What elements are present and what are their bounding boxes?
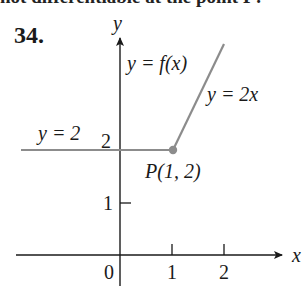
point-p-label: P(1, 2) (144, 160, 201, 183)
point-p (169, 146, 177, 154)
y-equals-2-label: y = 2 (36, 122, 80, 145)
y-equals-2x-label: y = 2x (205, 83, 258, 106)
x-tick-label-1: 1 (167, 261, 177, 283)
x-tick-label-2: 2 (219, 261, 229, 283)
y-tick-label-2: 2 (101, 130, 111, 152)
x-axis-label: x (291, 244, 301, 266)
piecewise-graph: y x y = f(x) y = 2x y = 2 P(1, 2) 2 1 0 … (0, 0, 306, 286)
y-axis-label: y (111, 12, 122, 35)
x-tick-label-0: 0 (104, 261, 114, 283)
y-tick-label-1: 1 (103, 192, 113, 214)
function-label: y = f(x) (125, 52, 187, 75)
